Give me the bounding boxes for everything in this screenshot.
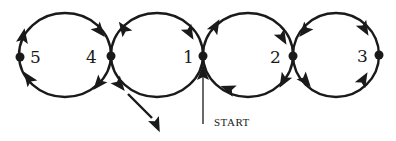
node-2-label: 2: [270, 47, 281, 67]
node-1-dot: [199, 52, 208, 61]
node-4-label: 4: [86, 47, 97, 67]
node-5-label: 5: [30, 47, 41, 67]
node-3-dot: [375, 51, 384, 60]
arrowhead-icon: [297, 72, 316, 91]
arrowhead-icon: [148, 116, 165, 135]
exit-arc: [128, 94, 152, 118]
nodes-group: 54123: [16, 46, 384, 67]
start-label: START: [214, 116, 250, 128]
arrowhead-icon: [355, 69, 373, 88]
arrowheads-group: [16, 16, 374, 134]
node-1-label: 1: [183, 47, 194, 67]
node-5-dot: [16, 53, 25, 62]
node-4-dot: [107, 52, 116, 61]
node-3-label: 3: [357, 46, 368, 66]
loop-diagram: START 54123: [0, 0, 396, 141]
node-2-dot: [289, 52, 298, 61]
